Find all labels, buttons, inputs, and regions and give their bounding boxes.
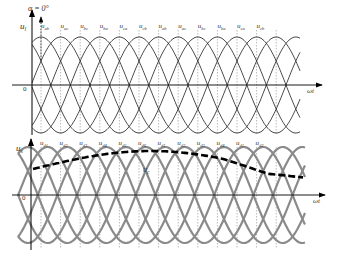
wave-label: ud6 [138,139,147,148]
wave-label: ud2 [60,139,69,148]
wave-label: uab [159,22,168,31]
top-panel: α = 0° ul 0 ωt uabuacubcubaucaucbuabuacu… [12,4,322,135]
wave-label: ud4 [216,139,225,148]
wave-label: ud2 [177,139,186,148]
wave-label: ubc [80,22,88,31]
top-wave-labels: uabuacubcubaucaucbuabuacubcubaucaucb [41,22,265,31]
top-origin-label: 0 [23,85,27,93]
wave-label: ud1 [158,139,166,148]
bottom-y-axis-label: us [16,143,24,154]
rectifier-waveform-diagram: α = 0° ul 0 ωt uabuacubcubaucaucbuabuacu… [0,0,337,260]
top-x-axis-label: ωt [307,87,315,95]
wave-label: uca [119,22,127,31]
wave-label: uac [61,22,69,31]
bottom-origin-label: 0 [22,194,26,202]
wave-label: ud1 [236,139,244,148]
bottom-x-axis-label: ωt [313,197,321,205]
bottom-panel: us 0 ωt uc ud1ud2ud3ud4ud5ud6ud1ud2ud3ud… [12,139,325,250]
wave-label: ud1 [40,139,48,148]
top-dashed-gridlines [41,30,276,135]
wave-label: ud4 [99,139,108,148]
wave-label: ud5 [118,139,127,148]
top-y-axis-label: ul [20,21,27,32]
wave-label: ucb [257,22,265,31]
wave-label: uba [217,22,226,31]
alpha-label: α = 0° [28,4,50,13]
wave-label: ucb [139,22,147,31]
wave-label: uac [178,22,186,31]
wave-label: uca [237,22,245,31]
wave-label: ubc [198,22,206,31]
bottom-wave-labels: ud1ud2ud3ud4ud5ud6ud1ud2ud3ud4ud1ud2 [40,139,264,148]
control-voltage-label: uc [143,165,150,175]
wave-label: ud3 [79,139,88,148]
wave-label: ud2 [256,139,265,148]
wave-label: uab [41,22,50,31]
wave-label: ud3 [197,139,206,148]
wave-label: uba [100,22,109,31]
